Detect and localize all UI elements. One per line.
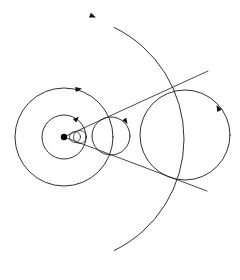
lower-tangent-ray [64,137,207,191]
enveloping-arc [114,28,184,251]
geometry-canvas [0,0,240,280]
center-point-dot [61,134,67,140]
upper-tangent-ray [64,71,208,137]
geometric-diagram [0,0,240,280]
outer-right-circle [140,90,230,180]
arrow-enveloping-arc [89,13,97,20]
